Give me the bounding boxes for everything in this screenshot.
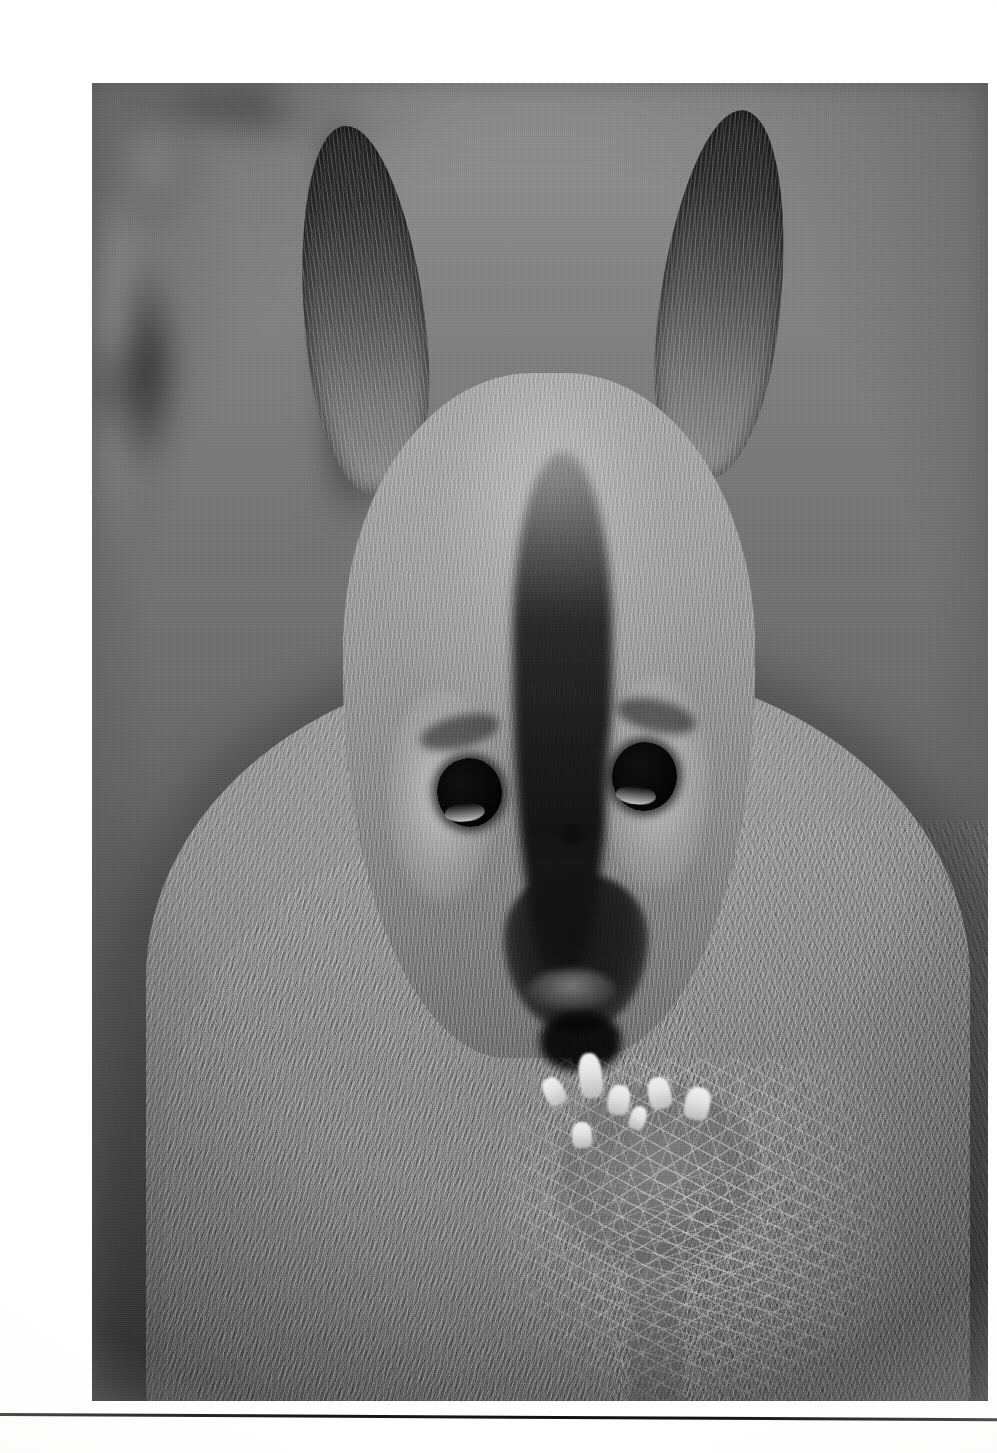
left-eye-catchlight	[444, 802, 485, 823]
thistle-spines-lower	[594, 1164, 917, 1401]
nose-nostril	[562, 824, 583, 845]
bottom-rule	[0, 1413, 997, 1421]
upper-lip-band	[527, 969, 617, 1011]
wallaby-photograph	[92, 83, 988, 1401]
thistle-floret	[571, 1121, 592, 1149]
scanned-page	[0, 0, 997, 1453]
